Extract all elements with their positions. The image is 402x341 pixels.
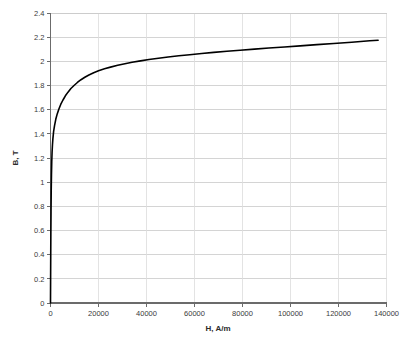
bh-curve-chart: 00.20.40.60.811.21.41.61.822.22.40200004… [0,0,402,341]
y-axis-tick-label: 1.4 [34,130,44,139]
y-axis-tick-label: 0.8 [34,202,44,211]
chart-canvas: 00.20.40.60.811.21.41.61.822.22.40200004… [0,0,402,341]
x-axis-tick-label: 60000 [184,309,205,318]
y-axis-tick-label: 1.6 [34,105,44,114]
y-axis-tick-label: 1 [40,178,44,187]
y-axis-tick-label: 0 [40,299,44,308]
y-axis-tick-label: 0.6 [34,226,44,235]
x-axis-tick-label: 0 [48,309,52,318]
y-axis-tick-label: 2.2 [34,33,44,42]
x-axis-tick-label: 80000 [232,309,253,318]
grid-lines [51,13,387,303]
x-axis-tick-label: 40000 [136,309,157,318]
x-axis-tick-label: 120000 [326,309,351,318]
y-axis-tick-label: 2.4 [34,9,44,18]
axis-ticks [47,13,387,307]
tick-labels-layer: 00.20.40.60.811.21.41.61.822.22.40200004… [34,9,399,318]
y-axis-tick-label: 1.2 [34,154,44,163]
data-series-line [51,40,379,303]
y-axis-tick-label: 2 [40,57,44,66]
x-axis-tick-label: 20000 [88,309,109,318]
x-axis-tick-label: 140000 [374,309,399,318]
x-axis-title: H, A/m [205,324,230,333]
y-axis-tick-label: 0.2 [34,275,44,284]
x-axis-tick-label: 100000 [278,309,303,318]
y-axis-tick-label: 0.4 [34,250,44,259]
y-axis-tick-label: 1.8 [34,81,44,90]
y-axis-title: B, T [11,150,20,165]
data-series-layer [51,40,379,303]
